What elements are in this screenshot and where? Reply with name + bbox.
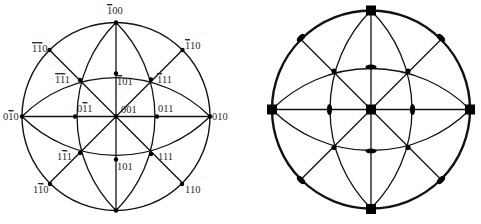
threefold-axis-icon	[405, 145, 410, 150]
pole-label: 100	[107, 5, 123, 16]
pole-dot	[114, 208, 118, 212]
pole-label: 110	[185, 184, 200, 195]
twofold-axis-ellipse-icon	[366, 64, 377, 69]
pole-dot	[47, 48, 51, 52]
pole-label: 111	[157, 74, 172, 85]
fourfold-axis-square-icon	[366, 204, 376, 214]
pole-dot	[114, 20, 118, 24]
fourfold-axis-square-icon	[267, 105, 277, 115]
pole-label: 110	[185, 40, 200, 51]
pole-label: 110	[32, 43, 47, 54]
pole-label: 001	[121, 104, 137, 115]
twofold-axis-ellipse-icon	[366, 148, 377, 153]
pole-label: 101	[117, 161, 133, 172]
pole-dot	[20, 114, 24, 118]
pole-label: 111	[158, 151, 173, 162]
right-symmetry-projection	[267, 6, 475, 215]
pole-label: 111	[57, 151, 72, 162]
fourfold-axis-square-icon	[366, 6, 376, 16]
twofold-axis-ellipse-icon	[327, 104, 332, 115]
pole-label: 110	[33, 184, 48, 195]
pole-label: 111	[55, 74, 70, 85]
pole-label: 010	[212, 111, 228, 122]
left-indexed-projection: 1001101101111011110100110010110101111011…	[3, 5, 228, 213]
pole-dot	[78, 78, 82, 82]
twofold-axis-ellipse-icon	[410, 104, 415, 115]
pole-label: 011	[77, 103, 92, 114]
pole-dot	[155, 114, 159, 118]
stereographic-projections-figure: 1001101101111011110100110010110101111011…	[0, 0, 481, 224]
pole-dot	[114, 114, 118, 118]
threefold-axis-icon	[405, 68, 410, 73]
pole-dot	[73, 114, 77, 118]
fourfold-axis-square-icon	[465, 105, 475, 115]
pole-label: 011	[158, 103, 173, 114]
pole-dot	[48, 182, 52, 186]
pole-label: 101	[117, 76, 133, 87]
pole-label: 010	[3, 111, 19, 122]
pole-dot	[149, 77, 153, 81]
pole-dot	[78, 151, 82, 155]
pole-dot	[149, 152, 153, 156]
threefold-axis-icon	[331, 68, 336, 73]
threefold-axis-icon	[331, 145, 336, 150]
fourfold-axis-square-icon	[366, 105, 376, 115]
pole-dot	[180, 182, 184, 186]
